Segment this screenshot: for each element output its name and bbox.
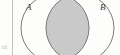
- venn-diagram-figure: A B rrl: [0, 0, 120, 55]
- set-a-label: A: [26, 3, 32, 12]
- margin-note-text: rrl: [2, 44, 7, 50]
- set-b-label: B: [100, 3, 106, 12]
